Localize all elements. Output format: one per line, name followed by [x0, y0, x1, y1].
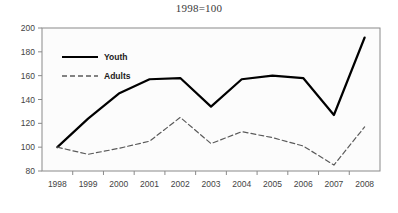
x-tick-label: 2001	[140, 179, 159, 189]
y-tick-label: 200	[21, 23, 35, 33]
x-tick-label: 2000	[109, 179, 128, 189]
y-tick-label: 180	[21, 47, 35, 57]
y-axis-tick-labels: 80100120140160180200	[21, 23, 35, 176]
legend-label-adults: Adults	[104, 71, 131, 81]
x-tick-label: 1999	[79, 179, 98, 189]
y-axis-tick-marks	[38, 28, 42, 171]
x-tick-label: 2007	[324, 179, 343, 189]
y-tick-label: 80	[26, 166, 36, 176]
x-tick-label: 1998	[48, 179, 67, 189]
plot-background	[42, 28, 380, 171]
x-axis-tick-labels: 1998199920002001200220032004200520062007…	[48, 179, 374, 189]
x-tick-label: 2006	[294, 179, 313, 189]
line-chart-plot: 80100120140160180200 1998199920002001200…	[0, 0, 398, 213]
x-tick-label: 2005	[263, 179, 282, 189]
y-tick-label: 160	[21, 71, 35, 81]
x-tick-label: 2002	[171, 179, 190, 189]
x-tick-label: 2008	[355, 179, 374, 189]
y-tick-label: 100	[21, 142, 35, 152]
x-axis-tick-marks	[73, 171, 350, 175]
x-tick-label: 2004	[232, 179, 251, 189]
chart-figure: 1998=100 80100120140160180200 1998199920…	[0, 0, 398, 213]
y-tick-label: 140	[21, 95, 35, 105]
x-tick-label: 2003	[202, 179, 221, 189]
y-tick-label: 120	[21, 118, 35, 128]
legend-label-youth: Youth	[104, 52, 127, 62]
